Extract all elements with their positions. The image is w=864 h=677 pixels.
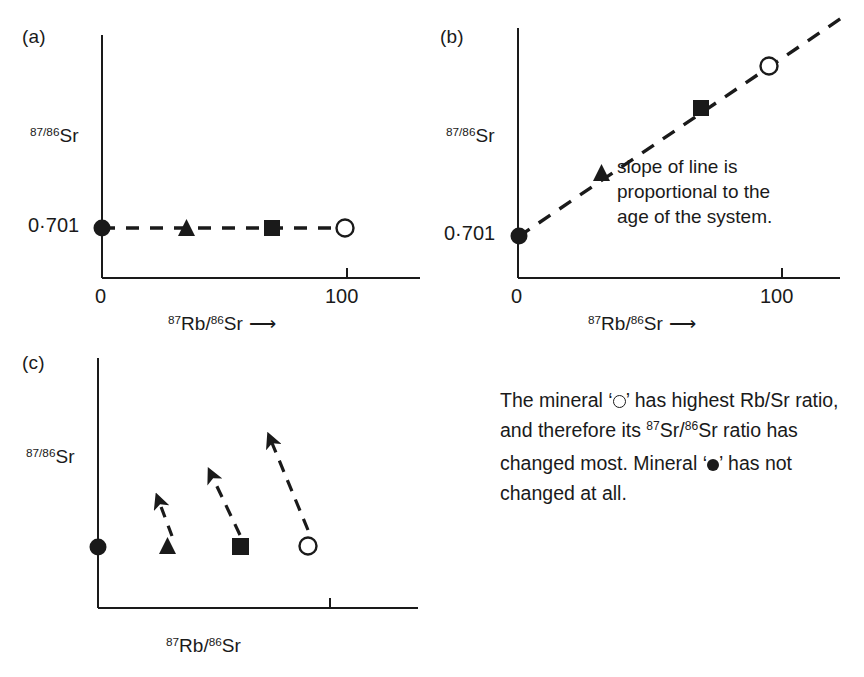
caption-part-1: The mineral ‘ [500,389,613,411]
panel-c-point-open-circle [300,538,317,555]
rb-sr-isochron-figure: (a) 87/86Sr 0·701 0 100 87Rb/86Sr⟶ (b) 8… [0,0,864,677]
panel-c-arrow-circle [272,443,308,530]
panel-c-label: (c) [22,352,45,374]
filled-circle-icon [707,459,719,471]
panel-c-point-filled-circle [90,539,107,556]
panel-c-point-filled-triangle [159,537,176,554]
caption-part-3: Sr/ [660,419,685,441]
open-circle-icon [613,395,626,408]
caption-sup-1: 87 [646,419,659,433]
panel-c-x-axis-title: 87Rb/86Sr [166,635,241,657]
caption-sup-2: 86 [685,419,698,433]
panel-c-graphics [0,0,864,677]
panel-c-y-axis-title: 87/86Sr [26,446,74,468]
panel-c-point-filled-square [232,538,249,555]
panel-c-arrow-triangle [160,504,172,536]
panel-c-arrow-square [213,478,240,535]
explanatory-caption: The mineral ‘’ has highest Rb/Sr ratio, … [500,385,852,508]
